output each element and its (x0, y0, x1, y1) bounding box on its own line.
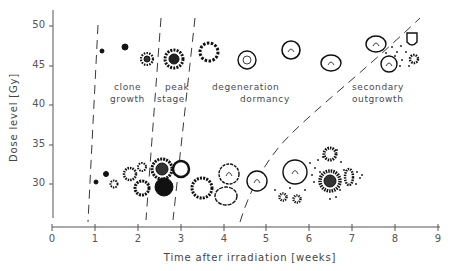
y-tick-30: 30 (15, 177, 45, 188)
x-axis-title: Time after irradiation [weeks] (120, 252, 380, 263)
y-tick-40: 40 (15, 98, 45, 109)
x-tick-6: 6 (301, 233, 317, 244)
x-tick-7: 7 (344, 233, 360, 244)
y-tick-45: 45 (15, 59, 45, 70)
x-tick-5: 5 (258, 233, 274, 244)
phase-label-dormancy: dormancy (240, 94, 290, 104)
phase-label-secondary: secondary (352, 82, 404, 92)
y-tick-50: 50 (15, 19, 45, 30)
x-tick-0: 0 (44, 233, 60, 244)
phase-label-outgrowth: outgrowth (352, 94, 403, 104)
spheroids-high-dose (100, 33, 418, 72)
phase-label-degeneration: degeneration (212, 82, 279, 92)
diagram-canvas (0, 0, 450, 271)
y-tick-35: 35 (15, 138, 45, 149)
phase-label-clone: clone (114, 82, 141, 92)
x-tick-3: 3 (173, 233, 189, 244)
spheroid-growth-diagram: 50 45 40 35 30 0 1 2 3 4 5 6 7 8 9 Time … (0, 0, 450, 271)
x-tick-9: 9 (430, 233, 446, 244)
phase-label-growth: growth (110, 94, 145, 104)
phase-label-peak: peak (165, 82, 189, 92)
x-tick-1: 1 (87, 233, 103, 244)
phase-label-stage: stage (157, 94, 185, 104)
x-tick-8: 8 (387, 233, 403, 244)
spheroids-low-dose (94, 148, 353, 205)
x-tick-2: 2 (130, 233, 146, 244)
x-tick-4: 4 (216, 233, 232, 244)
y-axis-title: Dose level [Gy] (8, 63, 19, 173)
